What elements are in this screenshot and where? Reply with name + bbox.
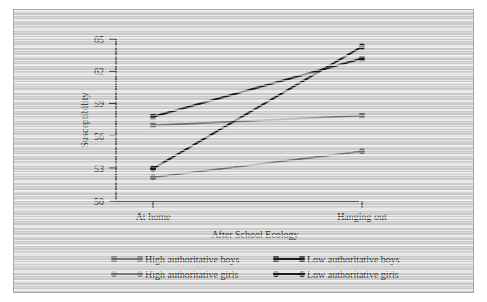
- y-axis-ticks: 65 62 59 56 53 50: [94, 34, 116, 207]
- data-series-layer: [150, 44, 365, 181]
- legend-item-low-authoritative-girls[interactable]: Low authoritative girls: [273, 269, 399, 280]
- series-low-authoritative-boys: [150, 56, 364, 120]
- y-tick-label-50: 50: [94, 196, 104, 207]
- legend-swatch-marker: [299, 271, 305, 277]
- data-point-marker: [359, 148, 365, 154]
- legend-item-label: High authoritative boys: [145, 254, 240, 265]
- x-tick-label-at-home: At home: [136, 211, 171, 222]
- y-tick-label-59: 59: [94, 98, 104, 109]
- legend-item-high-authoritative-girls[interactable]: High authoritative girls: [111, 269, 238, 280]
- legend-item-high-authoritative-boys[interactable]: High authoritative boys: [111, 254, 239, 265]
- chart-legend: High authoritative boysLow authoritative…: [111, 254, 400, 280]
- legend-swatch-marker: [273, 271, 279, 277]
- series-line: [153, 151, 362, 177]
- data-point-marker: [150, 114, 155, 119]
- y-axis-title: Susceptibility: [79, 93, 90, 148]
- series-line: [153, 116, 362, 126]
- legend-item-label: Low authoritative girls: [307, 269, 399, 280]
- legend-item-low-authoritative-boys[interactable]: Low authoritative boys: [273, 254, 400, 265]
- line-chart: 65 62 59 56 53 50 At home Hanging out Af…: [14, 10, 474, 293]
- legend-swatch-marker: [137, 256, 142, 261]
- legend-swatch-marker: [111, 271, 117, 277]
- data-point-marker: [150, 166, 156, 172]
- legend-swatch-marker: [299, 256, 304, 261]
- legend-swatch-marker: [111, 256, 116, 261]
- legend-item-label: Low authoritative boys: [307, 254, 400, 265]
- y-tick-label-53: 53: [94, 163, 104, 174]
- x-axis-ticks: At home Hanging out: [136, 201, 387, 222]
- series-high-authoritative-girls: [150, 148, 365, 180]
- data-point-marker: [359, 113, 364, 118]
- scanned-figure-panel: 65 62 59 56 53 50 At home Hanging out Af…: [13, 9, 474, 293]
- legend-swatch-marker: [273, 256, 278, 261]
- figure-container: 65 62 59 56 53 50 At home Hanging out Af…: [0, 0, 487, 302]
- legend-swatch-marker: [137, 271, 143, 277]
- x-tick-label-hanging-out: Hanging out: [337, 211, 387, 222]
- y-tick-label-62: 62: [94, 66, 104, 77]
- data-point-marker: [150, 123, 155, 128]
- y-tick-label-56: 56: [94, 131, 104, 142]
- y-tick-label-65: 65: [94, 34, 104, 45]
- x-axis-title: After School Ecology: [211, 229, 298, 240]
- data-point-marker: [359, 56, 364, 61]
- data-point-marker: [359, 44, 365, 50]
- data-point-marker: [150, 174, 156, 180]
- legend-item-label: High authoritative girls: [145, 269, 238, 280]
- series-high-authoritative-boys: [150, 113, 364, 128]
